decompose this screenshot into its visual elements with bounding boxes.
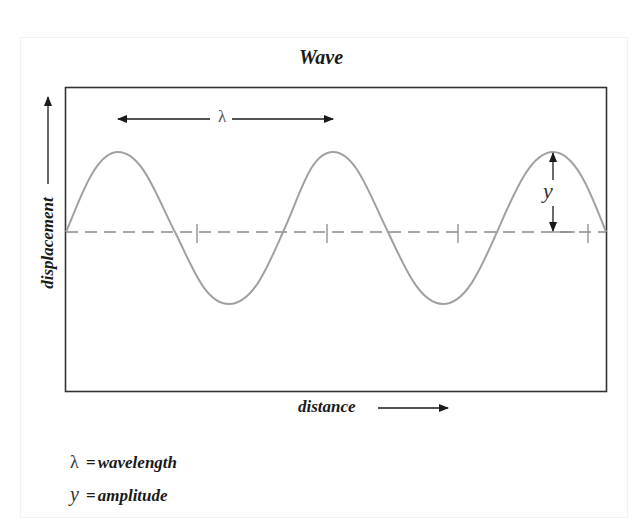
legend-text-amplitude: amplitude	[98, 486, 168, 505]
legend-item-amplitude: y=amplitude	[70, 478, 177, 510]
legend: λ=wavelength y=amplitude	[70, 446, 177, 510]
legend-item-wavelength: λ=wavelength	[70, 446, 177, 478]
legend-equals: =	[86, 453, 96, 472]
legend-symbol-lambda: λ	[70, 446, 82, 478]
sine-wave-curve	[66, 152, 606, 304]
legend-equals: =	[86, 486, 96, 505]
legend-text-wavelength: wavelength	[98, 453, 177, 472]
amplitude-symbol-label: y	[543, 180, 553, 202]
x-axis-label: distance	[298, 397, 356, 417]
y-axis-label: displacement	[38, 197, 58, 289]
legend-symbol-y: y	[70, 478, 82, 510]
plot-frame	[66, 88, 607, 392]
wavelength-symbol-label: λ	[216, 107, 228, 127]
